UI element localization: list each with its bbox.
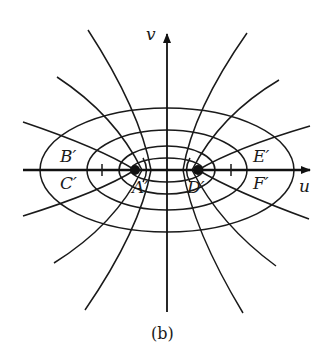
region-label-c: C′ — [60, 175, 77, 192]
v-axis-label: v — [146, 26, 156, 43]
focus-point-a — [130, 165, 140, 175]
region-label-e: E′ — [253, 148, 269, 165]
hyperbola-left-lower-3 — [23, 170, 135, 216]
u-axis-label: u — [299, 178, 310, 195]
figure-caption: (b) — [151, 326, 174, 342]
point-label-a: A′ — [132, 179, 148, 196]
hyperbola-left-upper-3 — [23, 122, 135, 170]
region-label-b: B′ — [60, 148, 76, 165]
point-label-d: D′ — [187, 179, 205, 196]
region-label-f: F′ — [253, 175, 269, 192]
elliptic-coordinates-figure: v u B′ C′ E′ F′ A′ D′ (b) — [0, 0, 321, 359]
diagram-canvas — [0, 0, 321, 359]
focus-point-d — [193, 165, 203, 175]
